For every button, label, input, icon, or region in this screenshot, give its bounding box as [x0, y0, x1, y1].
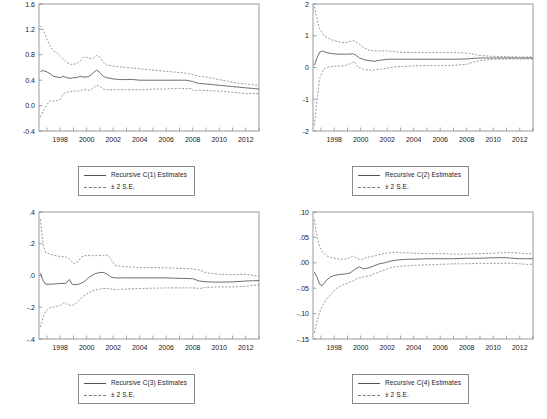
- x-tick-label: 2012: [512, 136, 528, 143]
- y-tick-label: .4: [29, 209, 35, 216]
- x-tick-label: 2000: [79, 344, 95, 351]
- series-line-estimates: [314, 258, 533, 286]
- legend-key-dashed-icon: [84, 391, 106, 399]
- legend-box: Recursive C(2) Estimates ± 2 S.E.: [352, 166, 469, 196]
- legend-key-dashed-icon: [358, 391, 380, 399]
- legend-label-se: ± 2 S.E.: [385, 391, 409, 399]
- series-line-se: [314, 59, 533, 125]
- x-tick-label: 2002: [379, 344, 395, 351]
- x-tick-label: 2012: [238, 344, 254, 351]
- x-tick-label: 2000: [353, 344, 369, 351]
- x-tick-label: 2000: [79, 136, 95, 143]
- recursive-estimates-figure: -0.40.00.40.81.21.6199820002002200420062…: [0, 0, 547, 419]
- y-tick-label: 0: [305, 64, 309, 71]
- legend-c4: Recursive C(4) Estimates ± 2 S.E.: [274, 374, 547, 404]
- x-tick-label: 2002: [105, 136, 121, 143]
- legend-label-estimates: Recursive C(2) Estimates: [385, 171, 461, 179]
- legend-entry-se: ± 2 S.E.: [84, 182, 187, 192]
- series-line-se: [40, 85, 259, 117]
- legend-entry-estimates: Recursive C(1) Estimates: [84, 170, 187, 180]
- x-tick-label: 2006: [158, 344, 174, 351]
- legend-label-estimates: Recursive C(1) Estimates: [111, 171, 187, 179]
- y-tick-label: .2: [29, 240, 35, 247]
- x-tick-label: 2012: [512, 344, 528, 351]
- y-tick-label: -2: [303, 128, 309, 135]
- x-tick-label: 1998: [326, 344, 342, 351]
- y-tick-label: .10: [299, 209, 309, 216]
- y-tick-label: .05: [299, 234, 309, 241]
- legend-box: Recursive C(3) Estimates ± 2 S.E.: [78, 374, 195, 404]
- legend-box: Recursive C(4) Estimates ± 2 S.E.: [352, 374, 469, 404]
- legend-c1: Recursive C(1) Estimates ± 2 S.E.: [0, 166, 273, 196]
- y-tick-label: 2: [305, 1, 309, 8]
- x-tick-label: 2010: [485, 136, 501, 143]
- y-tick-label: 1.6: [25, 1, 35, 8]
- legend-label-se: ± 2 S.E.: [111, 183, 135, 191]
- x-tick-label: 2006: [158, 136, 174, 143]
- y-tick-label: -.15: [297, 336, 309, 343]
- x-tick-label: 1998: [52, 344, 68, 351]
- x-tick-label: 2004: [132, 136, 148, 143]
- chart-svg-c1: -0.40.00.40.81.21.6199820002002200420062…: [0, 0, 273, 170]
- y-tick-label: -.2: [27, 304, 35, 311]
- legend-label-se: ± 2 S.E.: [111, 391, 135, 399]
- series-line-estimates: [40, 70, 259, 89]
- legend-key-solid-icon: [358, 379, 380, 387]
- legend-entry-estimates: Recursive C(4) Estimates: [358, 378, 461, 388]
- x-tick-label: 2010: [211, 344, 227, 351]
- x-tick-label: 2008: [459, 136, 475, 143]
- legend-entry-se: ± 2 S.E.: [84, 390, 187, 400]
- plot-area-c2: -2-101219982000200220042006200820102012: [274, 0, 547, 170]
- panel-c1: -0.40.00.40.81.21.6199820002002200420062…: [0, 0, 273, 209]
- x-tick-label: 2008: [185, 136, 201, 143]
- legend-key-solid-icon: [84, 171, 106, 179]
- x-tick-label: 2004: [406, 136, 422, 143]
- x-tick-label: 2012: [238, 136, 254, 143]
- plot-area-c3: -.4-.2.0.2.41998200020022004200620082010…: [0, 208, 273, 378]
- x-tick-label: 2004: [132, 344, 148, 351]
- series-line-se: [40, 285, 259, 327]
- chart-svg-c3: -.4-.2.0.2.41998200020022004200620082010…: [0, 208, 273, 378]
- legend-entry-se: ± 2 S.E.: [358, 182, 461, 192]
- legend-key-dashed-icon: [358, 183, 380, 191]
- legend-label-estimates: Recursive C(4) Estimates: [385, 379, 461, 387]
- legend-c3: Recursive C(3) Estimates ± 2 S.E.: [0, 374, 273, 404]
- x-tick-label: 2010: [485, 344, 501, 351]
- x-tick-label: 1998: [52, 136, 68, 143]
- series-line-se: [314, 220, 533, 260]
- legend-key-solid-icon: [358, 171, 380, 179]
- plot-area-c1: -0.40.00.40.81.21.6199820002002200420062…: [0, 0, 273, 170]
- chart-svg-c4: -.15-.10-.05.00.05.101998200020022004200…: [274, 208, 547, 378]
- panel-c4: -.15-.10-.05.00.05.101998200020022004200…: [274, 208, 547, 417]
- legend-box: Recursive C(1) Estimates ± 2 S.E.: [78, 166, 195, 196]
- y-tick-label: -.4: [27, 336, 35, 343]
- x-tick-label: 2006: [432, 344, 448, 351]
- x-tick-label: 2008: [185, 344, 201, 351]
- series-line-se: [314, 7, 533, 57]
- y-tick-label: .0: [29, 272, 35, 279]
- plot-area-c4: -.15-.10-.05.00.05.101998200020022004200…: [274, 208, 547, 378]
- x-tick-label: 2006: [432, 136, 448, 143]
- legend-entry-estimates: Recursive C(2) Estimates: [358, 170, 461, 180]
- chart-svg-c2: -2-101219982000200220042006200820102012: [274, 0, 547, 170]
- y-tick-label: -.05: [297, 285, 309, 292]
- legend-entry-estimates: Recursive C(3) Estimates: [84, 378, 187, 388]
- y-tick-label: 0.8: [25, 51, 35, 58]
- series-line-se: [40, 26, 259, 86]
- y-tick-label: 1.2: [25, 26, 35, 33]
- y-tick-label: 1: [305, 32, 309, 39]
- legend-label-se: ± 2 S.E.: [385, 183, 409, 191]
- legend-entry-se: ± 2 S.E.: [358, 390, 461, 400]
- x-tick-label: 2008: [459, 344, 475, 351]
- series-line-estimates: [314, 51, 533, 65]
- x-tick-label: 2002: [379, 136, 395, 143]
- series-line-se: [40, 219, 259, 276]
- legend-key-dashed-icon: [84, 183, 106, 191]
- y-tick-label: 0.4: [25, 77, 35, 84]
- y-tick-label: -.10: [297, 310, 309, 317]
- x-tick-label: 2002: [105, 344, 121, 351]
- y-tick-label: -1: [303, 96, 309, 103]
- legend-key-solid-icon: [84, 379, 106, 387]
- x-tick-label: 2010: [211, 136, 227, 143]
- x-tick-label: 2000: [353, 136, 369, 143]
